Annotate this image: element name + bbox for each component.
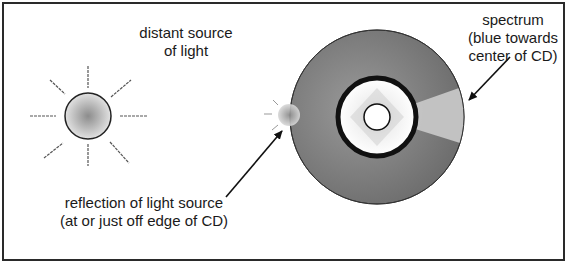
spectrum-label: spectrum (blue towards center of CD) xyxy=(461,11,565,65)
spectrum-label-line3: center of CD) xyxy=(461,47,565,65)
light-source-label: distant source of light xyxy=(128,24,244,60)
reflection-label: reflection of light source (at or just o… xyxy=(50,194,238,230)
light-source-label-line1: distant source xyxy=(128,24,244,42)
spectrum-label-line1: spectrum xyxy=(461,11,565,29)
spectrum-label-line2: (blue towards xyxy=(461,29,565,47)
reflection-arrow xyxy=(226,131,282,197)
reflection-label-line2: (at or just off edge of CD) xyxy=(50,212,238,230)
reflection-label-line1: reflection of light source xyxy=(50,194,238,212)
compact-disc-icon xyxy=(290,30,464,204)
light-source-icon xyxy=(30,66,147,166)
light-source-label-line2: of light xyxy=(128,42,244,60)
